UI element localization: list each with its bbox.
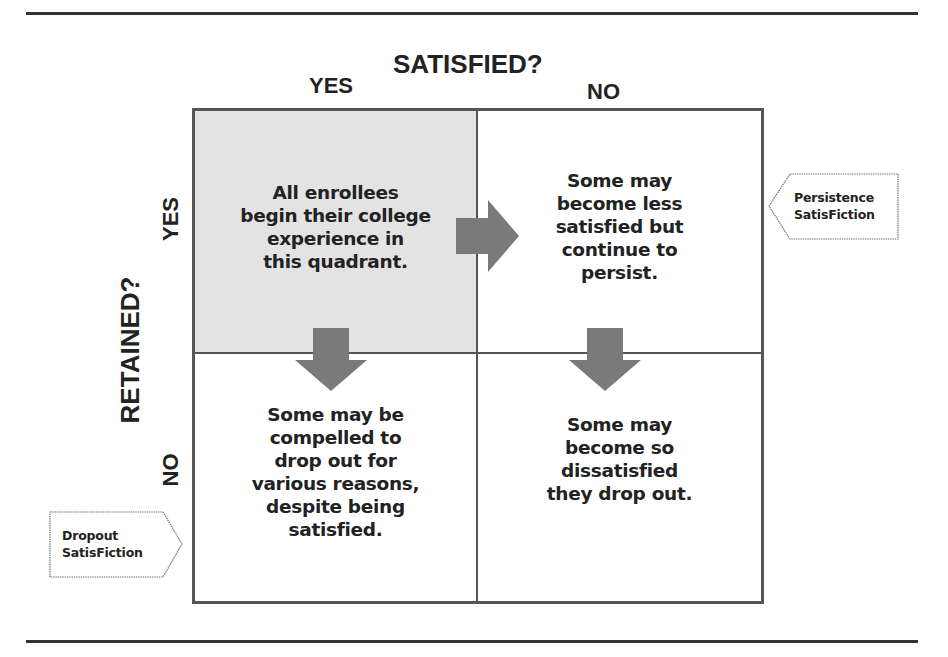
arrow-right-icon: [456, 200, 519, 272]
persistence-callout-label: Persistence SatisFiction: [794, 189, 875, 223]
arrow-down-icon: [569, 328, 641, 391]
arrow-down-icon: [295, 328, 367, 391]
dropout-callout-label: Dropout SatisFiction: [62, 527, 143, 561]
